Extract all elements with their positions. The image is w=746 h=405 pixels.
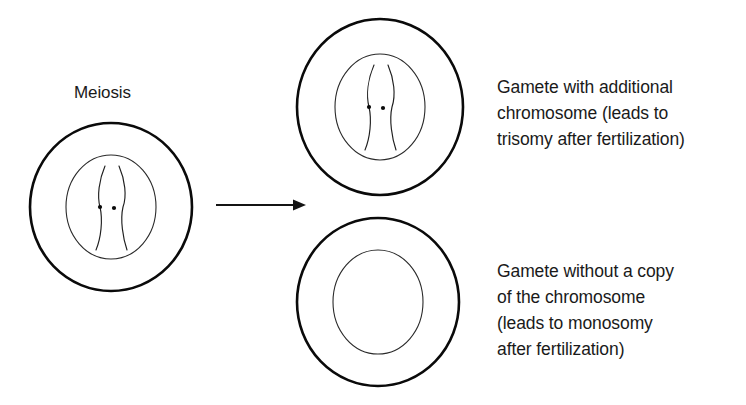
meiosis-label: Meiosis bbox=[74, 80, 131, 106]
centromere-dot-left bbox=[367, 105, 371, 109]
gamete-trisomy-cell bbox=[297, 19, 463, 195]
centromere-dot-left bbox=[98, 205, 102, 209]
parent-cell-nucleus bbox=[66, 155, 156, 259]
gamete-monosomy-cell bbox=[297, 218, 459, 386]
meiosis-arrow bbox=[216, 200, 306, 211]
gamete-monosomy-caption: Gamete without a copy of the chromosome … bbox=[497, 258, 674, 362]
centromere-dot-right bbox=[112, 206, 116, 210]
gamete-monosomy-nucleus bbox=[333, 250, 423, 354]
centromere-dot-right bbox=[381, 106, 385, 110]
gamete-trisomy-caption: Gamete with additional chromosome (leads… bbox=[497, 74, 685, 152]
meiosis-nondisjunction-diagram: Meiosis Gamete with additional chromosom… bbox=[0, 0, 746, 405]
gamete-trisomy-nucleus bbox=[335, 54, 425, 160]
arrow-head bbox=[293, 200, 306, 211]
parent-cell bbox=[30, 123, 192, 291]
